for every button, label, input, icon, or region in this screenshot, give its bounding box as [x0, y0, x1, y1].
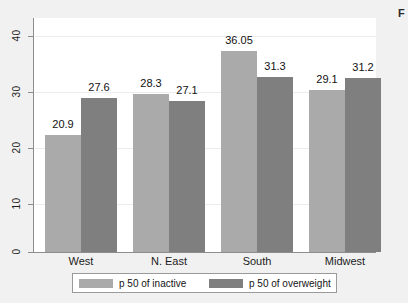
bar-neast-overweight[interactable] [169, 101, 205, 252]
x-tick-label-south: South [221, 255, 293, 267]
y-tick-mark-0 [28, 252, 34, 253]
bar-west-inactive[interactable] [45, 135, 81, 252]
y-tick-label-0: 0 [11, 242, 22, 262]
bar-south-inactive[interactable] [221, 51, 257, 252]
legend-swatch-overweight-icon [209, 279, 243, 288]
bar-value-south-inactive: 36.05 [215, 34, 263, 46]
legend-entry-inactive[interactable]: p 50 of inactive [79, 274, 186, 292]
x-axis-line [33, 252, 376, 253]
bar-west-overweight[interactable] [81, 98, 117, 252]
y-tick-label-40: 40 [11, 26, 22, 46]
x-tick-label-west: West [45, 255, 117, 267]
corner-glyph: F [398, 7, 406, 19]
chart-figure: 40 30 20 10 0 20.9 27.6 28.3 27.1 36.05 … [0, 0, 408, 303]
y-tick-label-10: 10 [11, 194, 22, 214]
x-tick-label-midwest: Midwest [309, 255, 381, 267]
bar-value-west-inactive: 20.9 [41, 118, 85, 130]
legend-swatch-inactive-icon [79, 279, 113, 288]
y-tick-label-20: 20 [11, 138, 22, 158]
bar-value-neast-overweight: 27.1 [165, 84, 209, 96]
legend-label-overweight: p 50 of overweight [249, 278, 331, 289]
x-tick-label-neast: N. East [133, 255, 205, 267]
bar-value-south-overweight: 31.3 [253, 60, 297, 72]
bar-south-overweight[interactable] [257, 77, 293, 252]
bar-midwest-overweight[interactable] [345, 78, 381, 252]
legend-entry-overweight[interactable]: p 50 of overweight [209, 274, 331, 292]
chart-legend: p 50 of inactive p 50 of overweight [72, 273, 337, 293]
bar-value-west-overweight: 27.6 [77, 81, 121, 93]
bars-layer: 20.9 27.6 28.3 27.1 36.05 31.3 29.1 31.2 [33, 18, 376, 252]
bar-value-midwest-inactive: 29.1 [305, 73, 349, 85]
bar-midwest-inactive[interactable] [309, 90, 345, 252]
legend-label-inactive: p 50 of inactive [119, 278, 186, 289]
y-tick-label-30: 30 [11, 82, 22, 102]
bar-neast-inactive[interactable] [133, 94, 169, 252]
bar-value-midwest-overweight: 31.2 [341, 61, 385, 73]
